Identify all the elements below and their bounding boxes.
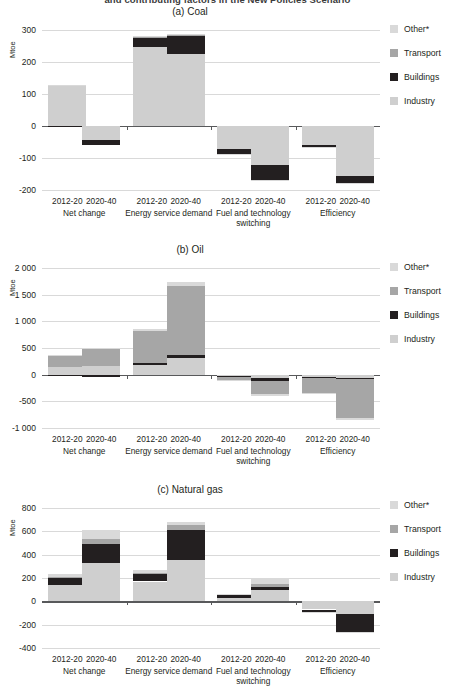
y-axis-tick-label: 0 xyxy=(31,370,36,380)
bar-segment-other xyxy=(217,380,255,381)
y-axis-tick-label: 100 xyxy=(22,89,36,99)
legend-item-industry[interactable]: Industry xyxy=(390,334,435,344)
x-axis-period-label: 2020-40 xyxy=(170,196,200,206)
gridline xyxy=(42,428,380,429)
bar-segment-other xyxy=(336,418,374,420)
bar-segment-other xyxy=(217,154,255,155)
bar-segment-industry xyxy=(167,560,205,601)
legend-swatch-icon xyxy=(390,49,398,57)
bar-segment-transport xyxy=(133,37,171,38)
x-axis-tick xyxy=(127,126,128,130)
bar-fuel-and-technology-switching-2020-40 xyxy=(251,30,289,190)
bar-efficiency-2020-40 xyxy=(336,268,374,428)
legend-item-other[interactable]: Other* xyxy=(390,500,429,510)
x-axis-period-label: 2020-40 xyxy=(86,196,116,206)
legend-item-buildings[interactable]: Buildings xyxy=(390,310,439,320)
bar-segment-industry xyxy=(48,585,86,602)
bar-segment-industry xyxy=(82,366,120,375)
bar-efficiency-2012-20 xyxy=(302,30,340,190)
y-axis-tick-label: 800 xyxy=(22,503,36,513)
bar-segment-buildings xyxy=(336,176,374,184)
bar-segment-transport xyxy=(251,584,289,586)
bar-segment-buildings xyxy=(167,36,205,54)
x-axis-period-label: 2012-20 xyxy=(306,434,336,444)
x-axis-period-label: 2020-40 xyxy=(339,196,369,206)
legend-label: Transport xyxy=(404,286,441,296)
x-axis-group-label: Efficiency xyxy=(284,208,393,218)
bar-segment-other xyxy=(82,530,120,539)
bar-net-change-2020-40 xyxy=(82,30,120,190)
bar-segment-buildings xyxy=(133,38,171,48)
legend-swatch-icon xyxy=(390,501,398,509)
y-axis-tick-label: 1 000 xyxy=(15,316,36,326)
bar-segment-other xyxy=(217,594,255,595)
bar-efficiency-2020-40 xyxy=(336,30,374,190)
bar-segment-industry xyxy=(217,598,255,602)
x-axis-period-label: 2020-40 xyxy=(255,196,285,206)
bar-segment-transport xyxy=(302,378,340,393)
x-axis-period-label: 2012-20 xyxy=(137,196,167,206)
gridline xyxy=(42,190,380,191)
legend-label: Other* xyxy=(404,24,429,34)
bar-segment-industry xyxy=(82,126,120,140)
bar-net-change-2020-40 xyxy=(82,508,120,648)
legend-item-other[interactable]: Other* xyxy=(390,262,429,272)
bar-segment-other xyxy=(167,522,205,525)
x-axis-period-label: 2020-40 xyxy=(170,654,200,664)
legend-swatch-icon xyxy=(390,97,398,105)
bar-efficiency-2012-20 xyxy=(302,508,340,648)
legend-item-industry[interactable]: Industry xyxy=(390,572,435,582)
bar-segment-other xyxy=(133,36,171,37)
legend-item-industry[interactable]: Industry xyxy=(390,96,435,106)
bar-segment-other xyxy=(302,393,340,394)
x-axis-period-label: 2012-20 xyxy=(137,434,167,444)
legend-item-other[interactable]: Other* xyxy=(390,24,429,34)
x-axis-tick xyxy=(127,601,128,605)
legend-item-buildings[interactable]: Buildings xyxy=(390,72,439,82)
y-axis-tick-label: -400 xyxy=(19,643,36,653)
bar-segment-industry xyxy=(217,126,255,149)
bar-segment-other xyxy=(251,180,289,181)
x-axis-period-label: 2012-20 xyxy=(221,654,251,664)
bar-segment-other xyxy=(302,147,340,148)
x-axis-tick xyxy=(296,375,297,379)
bar-fuel-and-technology-switching-2012-20 xyxy=(217,30,255,190)
panel-title: (c) Natural gas xyxy=(0,484,380,495)
bar-segment-buildings xyxy=(48,578,86,585)
bar-fuel-and-technology-switching-2020-40 xyxy=(251,508,289,648)
x-axis-period-label: 2020-40 xyxy=(255,434,285,444)
legend-item-transport[interactable]: Transport xyxy=(390,48,441,58)
x-axis-period-label: 2012-20 xyxy=(221,434,251,444)
legend-swatch-icon xyxy=(390,287,398,295)
x-axis-tick xyxy=(127,375,128,379)
y-axis-tick-label: 200 xyxy=(22,573,36,583)
legend-swatch-icon xyxy=(390,311,398,319)
bar-segment-transport xyxy=(82,539,120,544)
x-axis-period-label: 2020-40 xyxy=(86,654,116,664)
x-axis-tick xyxy=(211,601,212,605)
plot-area: 2 0001 5001 0005000-500-1 000Mtoe xyxy=(42,268,380,428)
legend-label: Other* xyxy=(404,262,429,272)
bar-fuel-and-technology-switching-2020-40 xyxy=(251,268,289,428)
bar-net-change-2012-20 xyxy=(48,268,86,428)
bar-segment-industry xyxy=(133,365,171,375)
panel-title: (a) Coal xyxy=(0,6,380,17)
y-axis-tick-label: 600 xyxy=(22,526,36,536)
legend-item-transport[interactable]: Transport xyxy=(390,524,441,534)
bar-segment-other xyxy=(336,183,374,184)
bar-segment-transport xyxy=(82,349,120,366)
bar-segment-industry xyxy=(251,126,289,165)
legend-item-buildings[interactable]: Buildings xyxy=(390,548,439,558)
legend-label: Industry xyxy=(404,96,435,106)
legend-item-transport[interactable]: Transport xyxy=(390,286,441,296)
bar-segment-transport xyxy=(48,577,86,578)
x-axis-tick xyxy=(211,375,212,379)
y-axis-title: Mtoe xyxy=(8,519,17,536)
bar-segment-industry xyxy=(133,582,171,602)
bar-segment-other xyxy=(48,355,86,356)
plot-area: 3002001000-100-200Mtoe xyxy=(42,30,380,190)
legend-swatch-icon xyxy=(390,549,398,557)
legend-label: Buildings xyxy=(404,72,439,82)
bar-segment-buildings xyxy=(133,363,171,364)
legend-swatch-icon xyxy=(390,73,398,81)
